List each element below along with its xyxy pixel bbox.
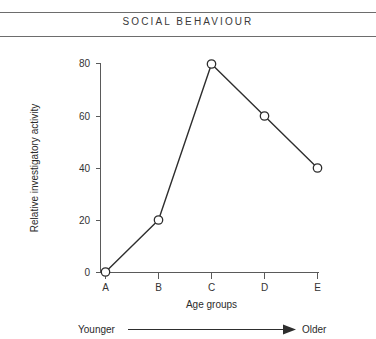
- x-axis-ticks: [106, 273, 318, 279]
- data-point-c: [207, 60, 215, 68]
- x-tick-label-a: A: [102, 282, 109, 293]
- y-tick-label-40: 40: [79, 163, 91, 174]
- data-point-d: [260, 112, 268, 120]
- x-tick-label-d: D: [261, 282, 268, 293]
- y-tick-label-20: 20: [79, 215, 91, 226]
- running-head-rule-bottom: [0, 36, 376, 37]
- data-point-a: [101, 268, 109, 276]
- figure-page: SOCIAL BEHAVIOUR 0 20 40 60 80: [0, 0, 376, 339]
- running-head-rule-top: [0, 12, 376, 13]
- y-axis-tick-labels: 0 20 40 60 80: [79, 58, 91, 278]
- x-tick-label-b: B: [155, 282, 162, 293]
- data-point-e: [313, 164, 321, 172]
- line-chart: 0 20 40 60 80 A B C D E: [0, 40, 376, 339]
- x-tick-label-e: E: [314, 282, 321, 293]
- data-series-line: [106, 64, 318, 272]
- y-tick-label-80: 80: [79, 58, 91, 69]
- annotation-older-label: Older: [302, 324, 327, 335]
- y-tick-label-60: 60: [79, 111, 91, 122]
- x-axis-tick-labels: A B C D E: [102, 282, 321, 293]
- running-head-text: SOCIAL BEHAVIOUR: [0, 16, 376, 27]
- x-axis-title: Age groups: [186, 299, 237, 310]
- y-tick-label-0: 0: [84, 267, 90, 278]
- data-point-b: [154, 216, 162, 224]
- age-direction-annotation: Younger Older: [78, 324, 327, 335]
- x-tick-label-c: C: [208, 282, 215, 293]
- y-axis-title: Relative investigatory activity: [29, 104, 40, 232]
- y-axis-ticks: [96, 64, 101, 273]
- annotation-younger-label: Younger: [78, 324, 116, 335]
- annotation-arrow-head: [283, 325, 296, 335]
